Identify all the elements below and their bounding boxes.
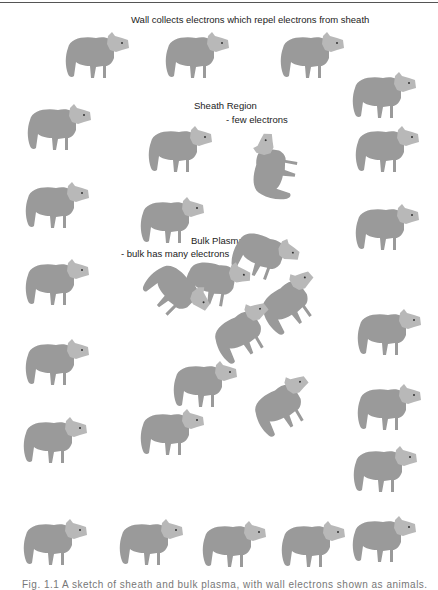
electron-animal-icon <box>350 200 422 256</box>
figure-caption: Fig. 1.1 A sketch of sheath and bulk pla… <box>22 579 428 590</box>
electron-animal-icon <box>352 380 424 436</box>
electron-animal-icon <box>276 517 348 573</box>
electron-animal-icon <box>114 515 186 571</box>
electron-animal-icon <box>18 515 90 571</box>
electron-animal-icon <box>60 28 132 84</box>
electron-animal-icon <box>240 128 308 209</box>
electron-animal-icon <box>22 100 94 156</box>
electron-animal-icon <box>20 178 92 234</box>
wall-label: Wall collects electrons which repel elec… <box>131 15 369 25</box>
electron-animal-icon <box>348 442 420 498</box>
sheath-note: - few electrons <box>226 115 288 125</box>
electron-animal-icon <box>275 28 347 84</box>
electron-animal-icon <box>20 255 92 311</box>
electron-animal-icon <box>352 305 424 361</box>
electron-animal-icon <box>20 335 92 391</box>
electron-animal-icon <box>347 512 419 568</box>
electron-animal-icon <box>347 68 419 124</box>
electron-animal-icon <box>350 122 422 178</box>
electron-animal-icon <box>197 517 269 573</box>
electron-animal-icon <box>239 364 329 448</box>
sheath-title: Sheath Region <box>194 101 257 111</box>
electron-animal-icon <box>135 405 207 461</box>
electron-animal-icon <box>143 122 215 178</box>
electron-animal-icon <box>135 193 207 249</box>
electron-animal-icon <box>18 413 90 469</box>
electron-animal-icon <box>160 28 232 84</box>
top-rule <box>0 2 438 3</box>
